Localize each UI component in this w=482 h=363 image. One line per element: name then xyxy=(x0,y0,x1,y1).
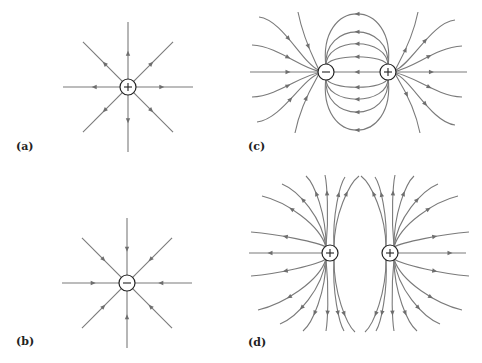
field-line xyxy=(365,259,386,332)
field-line xyxy=(134,93,173,132)
field-line xyxy=(298,12,319,70)
arrowhead-icon xyxy=(125,314,129,319)
arrowhead-icon xyxy=(391,190,395,195)
field-line xyxy=(83,93,122,132)
arrowhead-icon xyxy=(390,311,394,316)
arrowhead-icon xyxy=(432,268,437,272)
field-line xyxy=(295,74,319,133)
panel-label-b: (b) xyxy=(16,335,34,348)
arrowhead-icon xyxy=(159,85,164,89)
field-line xyxy=(395,20,455,70)
arrowhead-icon xyxy=(355,12,360,16)
field-line xyxy=(133,289,172,328)
field-line xyxy=(258,259,326,310)
field-line xyxy=(326,57,388,67)
field-line xyxy=(134,42,173,81)
panel-label-a: (a) xyxy=(16,140,34,153)
field-line xyxy=(326,259,328,331)
arrowhead-icon xyxy=(283,235,288,239)
field-line xyxy=(257,74,319,123)
arrowhead-icon xyxy=(126,51,130,56)
arrowhead-icon xyxy=(92,85,97,89)
field-line xyxy=(82,238,121,277)
field-line xyxy=(251,232,326,247)
positive-charge-icon xyxy=(382,245,398,261)
field-line xyxy=(394,176,414,247)
arrowhead-icon xyxy=(268,251,273,255)
field-line xyxy=(394,232,469,247)
panel-c-dipole xyxy=(250,12,467,133)
negative-charge-icon xyxy=(119,275,135,291)
arrowhead-icon xyxy=(126,118,130,123)
field-line xyxy=(82,289,121,328)
arrowhead-icon xyxy=(355,97,360,101)
arrowhead-icon xyxy=(355,42,360,46)
panel-a-positive-charge xyxy=(63,22,193,152)
field-line xyxy=(83,42,122,81)
arrowhead-icon xyxy=(448,251,453,255)
field-line xyxy=(334,176,359,247)
field-line xyxy=(394,259,417,331)
arrowhead-icon xyxy=(380,310,384,315)
field-line xyxy=(334,259,344,331)
arrowhead-icon xyxy=(355,70,360,74)
field-line xyxy=(262,196,326,247)
arrowhead-icon xyxy=(283,268,288,272)
arrowhead-icon xyxy=(158,281,163,285)
field-line xyxy=(395,74,455,125)
field-line xyxy=(259,17,319,70)
panel-d-two-positive-charges xyxy=(249,175,469,332)
positive-charge-icon xyxy=(322,245,338,261)
panel-label-d: (d) xyxy=(248,336,266,349)
field-line xyxy=(334,259,355,332)
field-line xyxy=(392,259,394,331)
positive-charge-icon xyxy=(120,79,136,95)
arrowhead-icon xyxy=(325,311,329,316)
arrowhead-icon xyxy=(432,235,437,239)
negative-charge-icon xyxy=(318,64,334,80)
field-line xyxy=(306,176,326,247)
arrowhead-icon xyxy=(355,85,360,89)
panel-b-negative-charge xyxy=(62,218,192,348)
arrowhead-icon xyxy=(325,190,329,195)
arrowhead-icon xyxy=(355,55,360,59)
positive-charge-icon xyxy=(380,64,396,80)
panel-label-c: (c) xyxy=(248,140,265,153)
arrowhead-icon xyxy=(355,110,360,114)
field-line xyxy=(376,259,386,331)
arrowhead-icon xyxy=(355,30,360,34)
field-line xyxy=(133,238,172,277)
field-line xyxy=(361,176,386,247)
field-line xyxy=(394,259,462,310)
field-line xyxy=(394,196,458,247)
field-line xyxy=(326,77,388,87)
arrowhead-icon xyxy=(91,281,96,285)
arrowhead-icon xyxy=(335,310,339,315)
field-line xyxy=(251,259,326,276)
arrowhead-icon xyxy=(315,191,319,196)
field-line xyxy=(326,77,388,112)
field-line xyxy=(303,259,326,331)
arrowhead-icon xyxy=(401,191,405,196)
field-lines-figure xyxy=(0,0,482,363)
field-line xyxy=(326,44,388,67)
arrowhead-icon xyxy=(355,128,360,132)
arrowhead-icon xyxy=(125,247,129,252)
arrowhead-icon xyxy=(286,70,291,74)
field-line xyxy=(394,259,469,276)
arrowhead-icon xyxy=(429,70,434,74)
